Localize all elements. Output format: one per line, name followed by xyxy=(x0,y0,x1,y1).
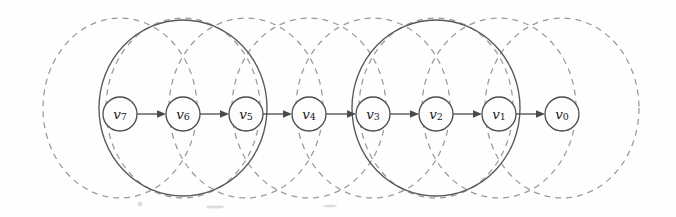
edge-v7-v6 xyxy=(137,110,166,117)
node-v5[interactable]: v5 xyxy=(229,97,263,131)
scan-speck-group xyxy=(138,202,337,209)
node-v7[interactable]: v7 xyxy=(103,97,137,131)
node-v2[interactable]: v2 xyxy=(419,97,453,131)
edge-v6-v5 xyxy=(200,110,229,117)
edge-v2-v1 xyxy=(453,110,482,117)
edge-v3-v2 xyxy=(390,110,419,117)
node-v0[interactable]: v0 xyxy=(545,97,579,131)
diagram-svg: v7 v6 v5 v4 v3 v2 xyxy=(0,0,676,217)
scan-speck xyxy=(323,205,337,208)
scan-speck xyxy=(138,202,143,207)
node-v1[interactable]: v1 xyxy=(482,97,516,131)
scan-speck xyxy=(206,205,224,208)
diagram-canvas: v7 v6 v5 v4 v3 v2 xyxy=(0,0,676,217)
node-v3[interactable]: v3 xyxy=(356,97,390,131)
node-v6[interactable]: v6 xyxy=(166,97,200,131)
node-v4[interactable]: v4 xyxy=(292,97,326,131)
